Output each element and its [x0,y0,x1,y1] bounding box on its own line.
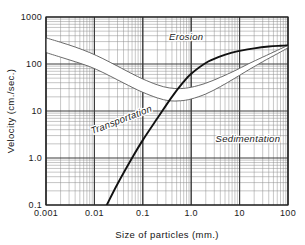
zone-label-text: Erosion [169,31,203,42]
x-tick-label: 1.0 [184,208,197,218]
hjulstrom-diagram-figure: 0.0010.010.11.010100 1000100101.00.1 Siz… [0,0,305,245]
y-tick-label: 1.0 [29,153,42,163]
y-axis-title: Velocity (cm./sec.) [5,69,16,154]
x-tick-label: 10 [234,208,245,218]
y-tick-label: 0.1 [29,200,42,210]
y-tick-label: 1000 [21,12,42,22]
x-tick-label: 100 [280,208,296,218]
zone-label-erosion: ErosionErosion [169,31,203,42]
chart-canvas: 0.0010.010.11.010100 1000100101.00.1 Siz… [0,0,305,245]
y-tick-label: 10 [31,106,42,116]
zone-label-sedimentation: SedimentationSedimentation [216,133,281,144]
y-tick-label: 100 [26,59,42,69]
zone-label-text: Sedimentation [216,133,281,144]
x-tick-label: 0.01 [85,208,104,218]
x-tick-label: 0.1 [136,208,149,218]
x-axis-title: Size of particles (mm.) [115,229,219,240]
